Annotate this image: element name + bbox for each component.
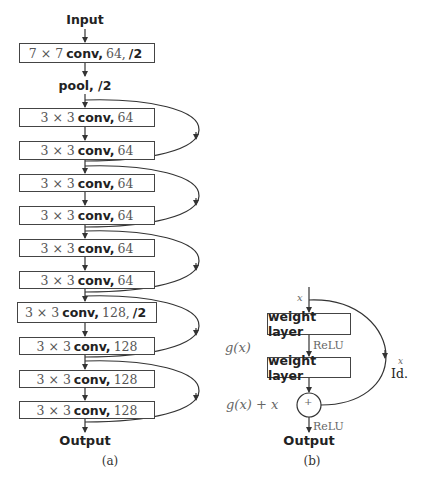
op: conv, <box>78 176 115 191</box>
pool-label: pool, /2 <box>35 78 135 93</box>
op: conv, <box>62 305 99 320</box>
channels: 128 <box>114 339 138 354</box>
channels: 128 <box>114 372 138 387</box>
op: conv, <box>74 403 111 418</box>
conv-layer-6: 3 × 3 conv, 64 <box>19 239 155 257</box>
conv-layer-5: 3 × 3 conv, 64 <box>19 206 155 225</box>
weight-layer-2: weight layer <box>267 357 351 378</box>
conv-layer-10: 3 × 3 conv, 128 <box>19 370 155 388</box>
conv-layer-4: 3 × 3 conv, 64 <box>19 174 155 192</box>
kernel-size: 3 × 3 <box>40 143 74 158</box>
channels: 128, <box>102 305 130 320</box>
conv-layer-8: 3 × 3 conv, 128, /2 <box>17 302 157 323</box>
kernel-size: 3 × 3 <box>37 339 71 354</box>
input-label: Input <box>55 12 115 27</box>
conv-layer-3: 3 × 3 conv, 64 <box>19 141 155 160</box>
channels: 64 <box>118 273 134 288</box>
op: conv, <box>74 372 111 387</box>
relu-2-label: ReLU <box>313 420 344 433</box>
input-var-x: x <box>297 292 303 303</box>
relu-1-label: ReLU <box>313 339 344 352</box>
op: conv, <box>66 46 103 61</box>
kernel-size: 3 × 3 <box>40 241 74 256</box>
op: conv, <box>78 273 115 288</box>
kernel-size: 3 × 3 <box>40 176 74 191</box>
conv-layer-11: 3 × 3 conv, 128 <box>19 401 155 419</box>
kernel-size: 3 × 3 <box>40 273 74 288</box>
op: conv, <box>78 241 115 256</box>
caption-a: (a) <box>85 454 135 468</box>
plus-icon: + <box>304 396 312 407</box>
op: conv, <box>78 143 115 158</box>
identity-label: Id. <box>391 366 408 381</box>
channels: 64 <box>118 143 134 158</box>
conv-layer-2: 3 × 3 conv, 64 <box>19 108 155 127</box>
kernel-size: 3 × 3 <box>37 372 71 387</box>
channels: 64 <box>118 176 134 191</box>
sum-label: g(x) + x <box>226 397 278 412</box>
kernel-size: 3 × 3 <box>25 305 59 320</box>
channels: 128 <box>114 403 138 418</box>
kernel-size: 3 × 3 <box>40 208 74 223</box>
caption-b: (b) <box>287 454 337 468</box>
output-label-a: Output <box>45 433 125 448</box>
conv-layer-9: 3 × 3 conv, 128 <box>19 337 155 355</box>
conv-layer-1: 7 × 7 conv, 64, /2 <box>19 43 155 63</box>
op: conv, <box>78 208 115 223</box>
op: conv, <box>78 110 115 125</box>
kernel-size: 7 × 7 <box>29 46 63 61</box>
weight-layer-1: weight layer <box>267 313 351 335</box>
channels: 64 <box>118 241 134 256</box>
channels: 64 <box>118 110 134 125</box>
gx-label: g(x) <box>225 340 251 355</box>
conv-layer-7: 3 × 3 conv, 64 <box>19 271 155 289</box>
op: conv, <box>74 339 111 354</box>
kernel-size: 3 × 3 <box>40 110 74 125</box>
kernel-size: 3 × 3 <box>37 403 71 418</box>
stride: /2 <box>133 305 146 320</box>
stride: /2 <box>129 46 142 61</box>
identity-var-x: x <box>398 356 403 366</box>
channels: 64, <box>106 46 126 61</box>
output-label-b: Output <box>269 433 349 448</box>
channels: 64 <box>118 208 134 223</box>
